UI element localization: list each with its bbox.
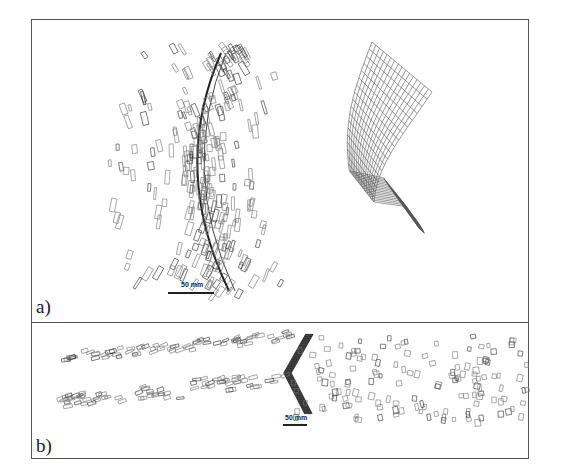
panel-b-label: b) <box>36 435 52 457</box>
panel-a-scalebar <box>168 292 214 294</box>
panel-b-scalebar-label: 50 mm <box>285 414 307 421</box>
panel-a-scalebar-label: 50 mm <box>181 281 203 288</box>
panel-a-label: a) <box>36 296 51 318</box>
panel-b-scalebar <box>283 424 307 426</box>
figure-graphics <box>0 0 561 475</box>
